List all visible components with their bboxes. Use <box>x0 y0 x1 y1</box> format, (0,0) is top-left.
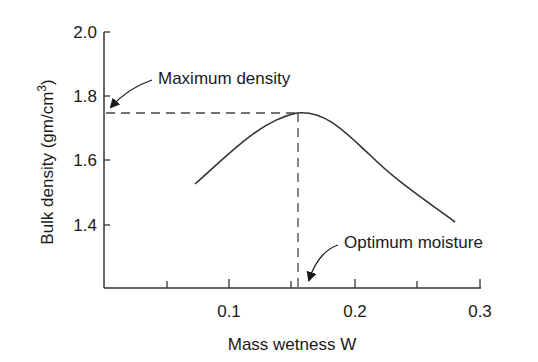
y-tick-label: 2.0 <box>73 23 97 42</box>
x-tick-label: 0.2 <box>343 302 367 321</box>
annotation-max-density: Maximum density <box>111 69 291 107</box>
x-axis-label: Mass wetness W <box>228 335 356 354</box>
compaction-chart: 2.0 1.8 1.6 1.4 0.1 0.2 0.3 Mass wetness… <box>0 0 538 362</box>
arrow-icon <box>111 80 152 107</box>
y-tick-label: 1.8 <box>73 87 97 106</box>
x-tick-label: 0.3 <box>468 302 492 321</box>
optimum-moisture-label: Optimum moisture <box>344 233 483 252</box>
compaction-curve <box>195 113 455 222</box>
annotation-optimum-moisture: Optimum moisture <box>309 233 483 280</box>
y-tick-label: 1.6 <box>73 151 97 170</box>
x-tick-label: 0.1 <box>217 302 241 321</box>
arrow-icon <box>309 245 338 280</box>
max-density-label: Maximum density <box>158 69 291 88</box>
y-axis-label: Bulk density (gm/cm3) <box>35 79 57 244</box>
x-ticks: 0.1 0.2 0.3 <box>167 279 492 321</box>
y-tick-label: 1.4 <box>73 216 97 235</box>
